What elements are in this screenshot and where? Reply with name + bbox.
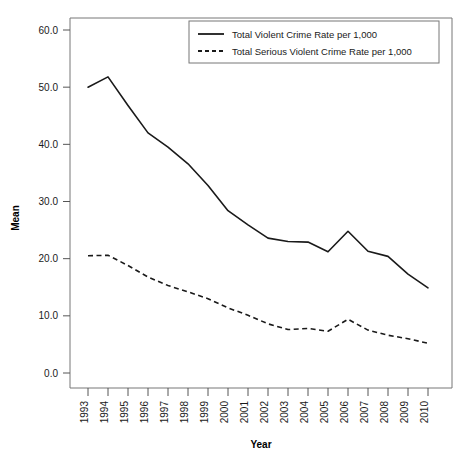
x-tick-label: 2004 xyxy=(299,401,310,424)
x-tick-label: 1999 xyxy=(199,401,210,424)
x-tick-label: 1996 xyxy=(139,401,150,424)
y-tick-label: 50.0 xyxy=(39,82,59,93)
x-tick-label: 2007 xyxy=(359,401,370,424)
x-tick-label: 2002 xyxy=(259,401,270,424)
x-tick-label: 2009 xyxy=(399,401,410,424)
x-tick-label: 2003 xyxy=(279,401,290,424)
x-tick-label: 2000 xyxy=(219,401,230,424)
legend-label-total-serious-violent-crime: Total Serious Violent Crime Rate per 1,0… xyxy=(232,46,412,57)
x-axis-title: Year xyxy=(250,439,271,450)
y-tick-label: 40.0 xyxy=(39,139,59,150)
x-tick-label: 2001 xyxy=(239,401,250,424)
x-tick-label: 1997 xyxy=(159,401,170,424)
chart-legend: Total Violent Crime Rate per 1,000 Total… xyxy=(189,21,439,63)
x-tick-label: 1994 xyxy=(99,401,110,424)
y-tick-label: 10.0 xyxy=(39,310,59,321)
x-tick-label: 1998 xyxy=(179,401,190,424)
x-tick-label: 2005 xyxy=(319,401,330,424)
legend-box xyxy=(189,21,439,63)
y-tick-label: 0.0 xyxy=(44,368,58,379)
y-tick-label: 30.0 xyxy=(39,196,59,207)
y-axis-title: Mean xyxy=(10,205,21,231)
y-tick-label: 60.0 xyxy=(39,25,59,36)
chart-figure: 0.010.020.030.040.050.060.0 199319941995… xyxy=(0,0,464,455)
x-tick-label: 1993 xyxy=(79,401,90,424)
x-tick-label: 2006 xyxy=(339,401,350,424)
legend-label-total-violent-crime: Total Violent Crime Rate per 1,000 xyxy=(232,29,377,40)
x-tick-label: 2008 xyxy=(379,401,390,424)
x-tick-label: 2010 xyxy=(419,401,430,424)
line-chart: 0.010.020.030.040.050.060.0 199319941995… xyxy=(0,0,464,455)
y-tick-label: 20.0 xyxy=(39,253,59,264)
x-tick-label: 1995 xyxy=(119,401,130,424)
